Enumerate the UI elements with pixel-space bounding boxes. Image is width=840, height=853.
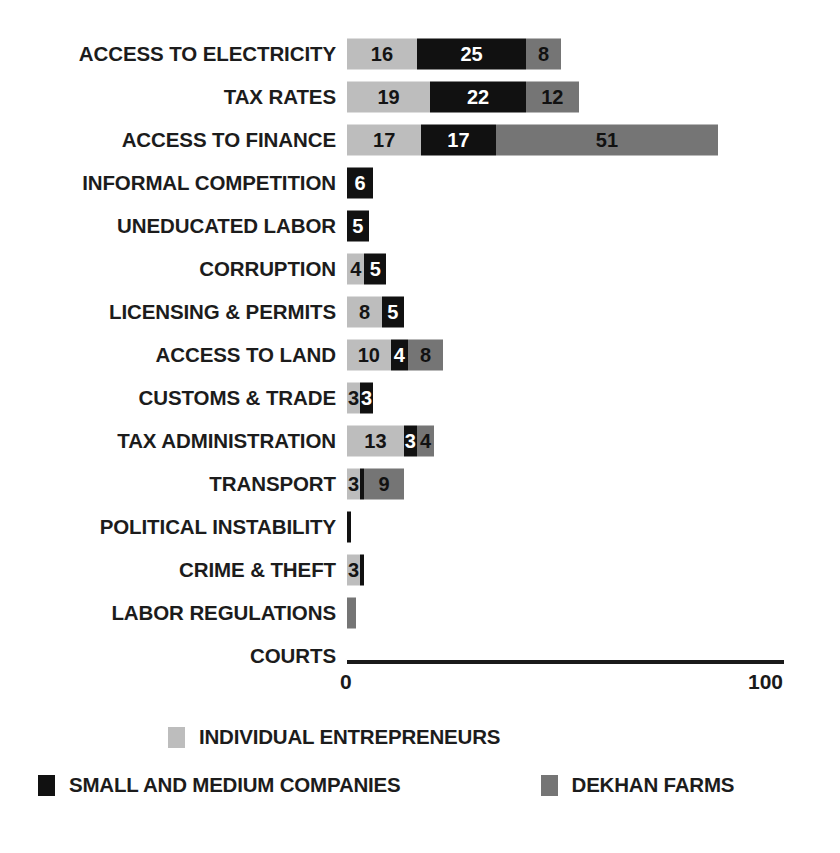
chart-row: TAX RATES192212 [0,75,840,118]
x-axis-tick-min: 0 [340,670,352,694]
bar-segment-dekhan-farms: 51 [496,124,719,155]
category-label: LABOR REGULATIONS [111,601,336,625]
category-label: ACCESS TO ELECTRICITY [79,42,336,66]
bar-value-label: 10 [358,345,380,365]
swatch-small-and-medium-companies-icon [38,775,55,796]
bar-segment-small-and-medium-companies: 6 [347,167,373,198]
stacked-bar-chart: ACCESS TO ELECTRICITY16258TAX RATES19221… [0,0,840,853]
chart-row: TRANSPORT39 [0,462,840,505]
bar-value-label: 6 [355,173,366,193]
bar-segment-individual-entrepreneurs: 3 [347,468,360,499]
stacked-bar: 16258 [347,38,561,69]
bar-segment-individual-entrepreneurs: 19 [347,81,430,112]
chart-row: ACCESS TO LAND1048 [0,333,840,376]
bar-value-label: 19 [377,87,399,107]
x-axis-line [347,660,784,664]
bar-value-label: 9 [379,474,390,494]
bar-value-label: 5 [370,259,381,279]
category-label: UNEDUCATED LABOR [117,214,336,238]
bar-value-label: 4 [420,431,431,451]
bar-value-label: 13 [364,431,386,451]
category-label: TAX RATES [224,85,336,109]
bar-segment-small-and-medium-companies: 3 [404,425,417,456]
swatch-dekhan-farms-icon [541,775,558,796]
legend-label-dekhan-farms: DEKHAN FARMS [572,773,735,797]
category-label: LICENSING & PERMITS [109,300,336,324]
chart-row: INFORMAL COMPETITION6 [0,161,840,204]
plot-area: ACCESS TO ELECTRICITY16258TAX RATES19221… [0,0,840,680]
category-label: COURTS [250,644,336,668]
stacked-bar: 3 [347,554,364,585]
category-label: ACCESS TO FINANCE [122,128,336,152]
swatch-individual-entrepreneurs-icon [168,727,185,748]
bar-value-label: 17 [373,130,395,150]
chart-row: UNEDUCATED LABOR5 [0,204,840,247]
chart-row: COURTS [0,634,840,677]
bar-segment-small-and-medium-companies: 22 [430,81,526,112]
bar-segment-individual-entrepreneurs: 8 [347,296,382,327]
bar-segment-dekhan-farms: 8 [526,38,561,69]
bar-segment-individual-entrepreneurs: 3 [347,382,360,413]
chart-row: CRIME & THEFT3 [0,548,840,591]
bar-value-label: 5 [387,302,398,322]
stacked-bar [347,597,356,628]
legend-item-individual-entrepreneurs: INDIVIDUAL ENTREPRENEURS [168,725,500,749]
legend-item-small-and-medium-companies: SMALL AND MEDIUM COMPANIES [38,773,401,797]
stacked-bar [347,511,351,542]
legend-row-bottom: SMALL AND MEDIUM COMPANIES DEKHAN FARMS [38,773,734,797]
stacked-bar: 5 [347,210,369,241]
legend-row-top: INDIVIDUAL ENTREPRENEURS [168,725,500,749]
stacked-bar: 39 [347,468,404,499]
bar-value-label: 22 [467,87,489,107]
bar-segment-small-and-medium-companies: 5 [364,253,386,284]
chart-row: ACCESS TO FINANCE171751 [0,118,840,161]
chart-row: CUSTOMS & TRADE33 [0,376,840,419]
chart-row: TAX ADMINISTRATION1334 [0,419,840,462]
bar-segment-dekhan-farms: 9 [364,468,403,499]
bar-value-label: 8 [359,302,370,322]
bar-value-label: 3 [348,474,359,494]
category-label: CRIME & THEFT [179,558,336,582]
bar-value-label: 3 [348,388,359,408]
bar-segment-small-and-medium-companies [347,511,351,542]
bar-segment-small-and-medium-companies: 25 [417,38,526,69]
chart-row: POLITICAL INSTABILITY [0,505,840,548]
bar-value-label: 5 [352,216,363,236]
x-axis-tick-max: 100 [748,670,783,694]
bar-value-label: 25 [460,44,482,64]
bar-segment-individual-entrepreneurs: 4 [347,253,364,284]
bar-value-label: 8 [538,44,549,64]
legend-label-individual-entrepreneurs: INDIVIDUAL ENTREPRENEURS [199,725,500,749]
category-label: INFORMAL COMPETITION [82,171,336,195]
bar-segment-small-and-medium-companies: 17 [421,124,495,155]
category-label: CUSTOMS & TRADE [139,386,336,410]
bar-segment-dekhan-farms [347,597,356,628]
stacked-bar: 45 [347,253,386,284]
stacked-bar: 1048 [347,339,443,370]
legend-label-small-and-medium-companies: SMALL AND MEDIUM COMPANIES [69,773,401,797]
bar-value-label: 12 [541,87,563,107]
category-label: TAX ADMINISTRATION [117,429,336,453]
bar-segment-dekhan-farms: 8 [408,339,443,370]
chart-row: ACCESS TO ELECTRICITY16258 [0,32,840,75]
bar-value-label: 4 [350,259,361,279]
stacked-bar: 192212 [347,81,579,112]
bar-segment-small-and-medium-companies: 5 [382,296,404,327]
bar-segment-individual-entrepreneurs: 13 [347,425,404,456]
category-label: POLITICAL INSTABILITY [100,515,336,539]
bar-value-label: 3 [361,388,372,408]
bar-segment-small-and-medium-companies: 3 [360,382,373,413]
chart-row: LICENSING & PERMITS85 [0,290,840,333]
chart-row: LABOR REGULATIONS [0,591,840,634]
category-label: TRANSPORT [209,472,336,496]
stacked-bar: 85 [347,296,404,327]
bar-segment-dekhan-farms: 4 [417,425,434,456]
bar-segment-individual-entrepreneurs: 10 [347,339,391,370]
bar-segment-individual-entrepreneurs: 16 [347,38,417,69]
bar-segment-individual-entrepreneurs: 17 [347,124,421,155]
stacked-bar: 1334 [347,425,434,456]
bar-segment-small-and-medium-companies: 4 [391,339,408,370]
bar-value-label: 51 [596,130,618,150]
bar-segment-small-and-medium-companies [360,554,364,585]
category-label: CORRUPTION [199,257,336,281]
